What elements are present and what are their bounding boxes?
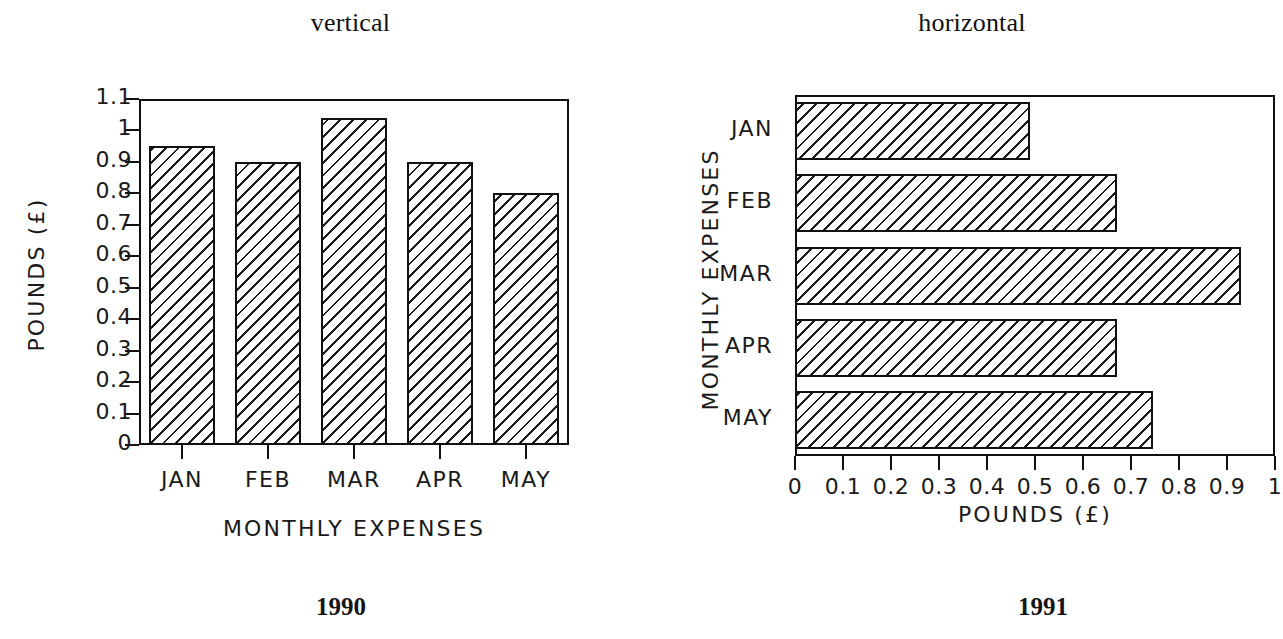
y-tick-label-1: 1 xyxy=(40,115,132,140)
bar-horizontal-JAN xyxy=(795,102,1030,160)
bar-horizontal-MAR xyxy=(795,247,1241,305)
x-tick-0.4 xyxy=(986,456,988,470)
y-category-label-JAN: JAN xyxy=(673,116,773,141)
x-tick-FEB xyxy=(267,445,269,459)
x-tick-label-1: 1 xyxy=(1235,474,1283,499)
bar-horizontal-MAY xyxy=(795,391,1153,449)
y-tick-label-0.9: 0.9 xyxy=(40,147,132,172)
x-tick-MAY xyxy=(525,445,527,459)
x-tick-0.5 xyxy=(1034,456,1036,470)
x-category-label-MAR: MAR xyxy=(304,467,404,492)
y-tick-label-0.7: 0.7 xyxy=(40,210,132,235)
bar-horizontal-FEB xyxy=(795,174,1117,232)
chart-panel-vertical: vertical 00.10.20.30.40.50.60.70.80.911.… xyxy=(0,0,641,639)
y-tick-label-0: 0 xyxy=(40,430,132,455)
y-tick-label-0.4: 0.4 xyxy=(40,304,132,329)
x-category-label-JAN: JAN xyxy=(132,467,232,492)
x-tick-0.1 xyxy=(842,456,844,470)
x-tick-0.8 xyxy=(1178,456,1180,470)
x-tick-JAN xyxy=(181,445,183,459)
y-category-label-MAY: MAY xyxy=(673,405,773,430)
x-tick-0 xyxy=(794,456,796,470)
bar-horizontal-APR xyxy=(795,319,1117,377)
x-tick-APR xyxy=(439,445,441,459)
y-category-label-FEB: FEB xyxy=(673,188,773,213)
panel-title-horizontal: horizontal xyxy=(641,8,1283,38)
y-axis-title-vertical: POUNDS (£) xyxy=(24,165,49,385)
x-tick-0.2 xyxy=(890,456,892,470)
x-category-label-FEB: FEB xyxy=(218,467,318,492)
bar-vertical-APR xyxy=(407,162,473,445)
x-category-label-MAY: MAY xyxy=(476,467,576,492)
x-tick-MAR xyxy=(353,445,355,459)
panel-caption-1991: 1991 xyxy=(1018,593,1068,621)
panel-caption-1990: 1990 xyxy=(316,593,366,621)
y-tick-label-0.8: 0.8 xyxy=(40,178,132,203)
x-axis-title-vertical: MONTHLY EXPENSES xyxy=(139,516,569,541)
y-category-label-MAR: MAR xyxy=(673,261,773,286)
chart-panel-horizontal: horizontal JANFEBMARAPRMAY 00.10.20.30.4… xyxy=(641,0,1283,639)
bar-vertical-JAN xyxy=(149,146,215,445)
x-tick-0.3 xyxy=(938,456,940,470)
y-tick-label-0.6: 0.6 xyxy=(40,241,132,266)
bar-vertical-MAR xyxy=(321,118,387,445)
figure-canvas: vertical 00.10.20.30.40.50.60.70.80.911.… xyxy=(0,0,1283,639)
x-axis-title-horizontal: POUNDS (£) xyxy=(795,502,1275,527)
y-tick-label-1.1: 1.1 xyxy=(40,84,132,109)
y-category-label-APR: APR xyxy=(673,333,773,358)
x-tick-1 xyxy=(1274,456,1276,470)
panel-title-vertical: vertical xyxy=(0,8,671,38)
bar-vertical-FEB xyxy=(235,162,301,445)
x-tick-0.6 xyxy=(1082,456,1084,470)
x-tick-0.9 xyxy=(1226,456,1228,470)
y-tick-label-0.1: 0.1 xyxy=(40,399,132,424)
y-tick-label-0.3: 0.3 xyxy=(40,336,132,361)
x-tick-0.7 xyxy=(1130,456,1132,470)
x-category-label-APR: APR xyxy=(390,467,490,492)
y-tick-label-0.5: 0.5 xyxy=(40,273,132,298)
bar-vertical-MAY xyxy=(493,193,559,445)
y-tick-label-0.2: 0.2 xyxy=(40,367,132,392)
y-axis-title-horizontal: MONTHLY EXPENSES xyxy=(698,151,723,411)
